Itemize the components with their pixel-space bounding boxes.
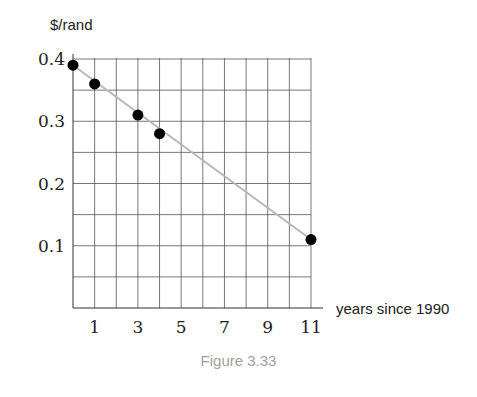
x-axis-label: years since 1990 xyxy=(336,300,449,317)
y-tick-label: 0.2 xyxy=(38,174,65,194)
x-tick-label: 5 xyxy=(176,317,187,337)
x-tick-label: 9 xyxy=(262,317,273,337)
x-tick-labels: 1357911 xyxy=(89,317,322,337)
data-point xyxy=(89,78,100,89)
x-tick-label: 1 xyxy=(89,317,100,337)
data-point xyxy=(306,234,317,245)
y-tick-label: 0.1 xyxy=(38,236,65,256)
grid xyxy=(73,58,311,308)
figure-caption: Figure 3.33 xyxy=(0,352,477,369)
data-point xyxy=(154,128,165,139)
x-tick-label: 7 xyxy=(219,317,230,337)
y-axis-label: $/rand xyxy=(50,16,93,33)
y-tick-labels: 0.10.20.30.4 xyxy=(38,49,65,256)
x-tick-label: 11 xyxy=(300,317,322,337)
y-tick-label: 0.4 xyxy=(38,49,65,69)
y-tick-label: 0.3 xyxy=(38,111,65,131)
x-tick-label: 3 xyxy=(132,317,143,337)
data-point xyxy=(132,110,143,121)
chart: 0.10.20.30.4 1357911 $/rand years since … xyxy=(0,0,477,397)
data-point xyxy=(68,60,79,71)
